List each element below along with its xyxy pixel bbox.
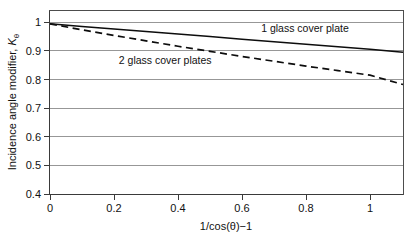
y-axis: 1 0.9 0.8 0.7 0.6 0.5 0.4 [26, 11, 50, 200]
y-tick-label-1: 1 [35, 16, 41, 28]
y-tick-label-0.8: 0.8 [26, 74, 41, 86]
series-line-2-glass-cover-plates [50, 24, 403, 85]
y-tick-label-0.5: 0.5 [26, 159, 41, 171]
y-tick-label-0.7: 0.7 [26, 102, 41, 114]
x-axis: 0 0.2 0.4 0.6 0.8 1 [47, 194, 403, 214]
data-series [50, 24, 403, 85]
annotation-2-glass-cover-plates: 2 glass cover plates [119, 54, 212, 66]
y-tick-label-0.9: 0.9 [26, 45, 41, 57]
svg-text:Incidence angle modifier, Kθ: Incidence angle modifier, Kθ [6, 33, 21, 170]
y-tick-label-0.6: 0.6 [26, 131, 41, 143]
series-line-1-glass-cover-plate [50, 24, 403, 52]
x-tick-label-0: 0 [47, 202, 53, 214]
x-tick-label-0.4: 0.4 [170, 202, 185, 214]
x-axis-title: 1/cos(θ)−1 [200, 220, 252, 232]
annotation-1-glass-cover-plate: 1 glass cover plate [261, 22, 349, 34]
chart-figure: 1 0.9 0.8 0.7 0.6 0.5 0.4 0 0.2 0.4 0.6 … [0, 0, 412, 237]
x-tick-label-0.2: 0.2 [106, 202, 121, 214]
x-tick-label-0.8: 0.8 [298, 202, 313, 214]
incidence-angle-modifier-chart: 1 0.9 0.8 0.7 0.6 0.5 0.4 0 0.2 0.4 0.6 … [0, 0, 412, 237]
x-tick-label-1: 1 [367, 202, 373, 214]
y-tick-label-0.4: 0.4 [26, 188, 41, 200]
y-axis-title-prefix: Incidence angle modifier, [6, 46, 18, 171]
y-axis-title: Incidence angle modifier, Kθ [6, 33, 21, 170]
y-axis-title-subscript: θ [12, 33, 21, 38]
x-tick-label-0.6: 0.6 [234, 202, 249, 214]
